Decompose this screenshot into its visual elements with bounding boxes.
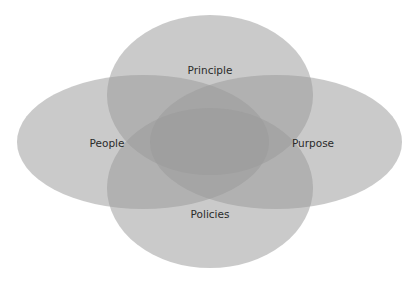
ellipse-policies [107, 108, 313, 268]
label-principle: Principle [188, 64, 233, 76]
venn-diagram: Principle People Purpose Policies [0, 0, 415, 281]
label-policies: Policies [191, 208, 230, 220]
label-purpose: Purpose [292, 137, 334, 149]
label-people: People [90, 137, 125, 149]
